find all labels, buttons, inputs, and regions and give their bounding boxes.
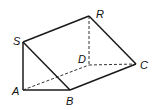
edge-BC [70, 64, 136, 90]
vertex-label-C: C [140, 59, 148, 71]
vertex-label-A: A [11, 85, 19, 97]
edge-RC [89, 16, 136, 64]
vertex-label-R: R [96, 8, 104, 20]
vertex-label-S: S [13, 35, 21, 47]
prism-diagram: S A B R D C [0, 0, 156, 110]
vertex-label-D: D [78, 53, 86, 65]
edge-DC-hidden [89, 64, 136, 65]
vertex-label-B: B [66, 95, 73, 107]
edge-SR [23, 16, 89, 42]
edge-SB [23, 42, 70, 90]
